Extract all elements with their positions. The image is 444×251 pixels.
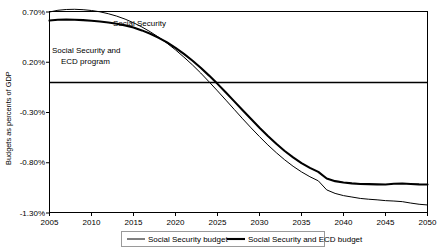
y-axis-tick-marks xyxy=(46,12,50,213)
data-series-group xyxy=(50,9,428,205)
y-tick-label: 0.20% xyxy=(22,58,45,67)
y-tick-label: 0.70% xyxy=(22,8,45,17)
x-tick-label: 2040 xyxy=(335,218,353,227)
legend-label-social-security-budget: Social Security budget xyxy=(148,235,228,244)
social-security-annotation: Social Security xyxy=(113,19,166,28)
y-axis-title: Budgets as percents of GDP xyxy=(4,71,13,165)
y-tick-label: -1.30% xyxy=(20,209,45,218)
chart-legend: Social Security budget Social Security a… xyxy=(122,232,364,247)
x-tick-label: 2010 xyxy=(83,218,101,227)
social-security-ecd-annotation-line1: Social Security and xyxy=(52,46,120,55)
plot-frame xyxy=(49,11,428,213)
x-tick-label: 2035 xyxy=(293,218,311,227)
series-line-social-security-ecd-budget xyxy=(50,20,428,185)
x-tick-label: 2015 xyxy=(125,218,143,227)
x-tick-label: 2050 xyxy=(419,218,437,227)
budget-line-chart: Budgets as percents of GDP 0.70%0.20%-0.… xyxy=(0,0,444,251)
y-tick-label: -0.30% xyxy=(20,108,45,117)
social-security-ecd-annotation-line2: ECD program xyxy=(61,57,110,66)
x-tick-label: 2020 xyxy=(167,218,185,227)
y-axis-tick-labels: 0.70%0.20%-0.30%-0.80%-1.30% xyxy=(20,8,45,218)
y-tick-label: -0.80% xyxy=(20,158,45,167)
x-tick-label: 2030 xyxy=(251,218,269,227)
x-axis-tick-marks xyxy=(50,213,428,217)
x-tick-label: 2005 xyxy=(41,218,59,227)
chart-container: Budgets as percents of GDP 0.70%0.20%-0.… xyxy=(0,0,444,251)
x-tick-label: 2025 xyxy=(209,218,227,227)
x-axis-tick-labels: 2005201020152020202520302035204020452050 xyxy=(41,218,437,227)
legend-label-social-security-ecd-budget: Social Security and ECD budget xyxy=(248,235,363,244)
x-tick-label: 2045 xyxy=(377,218,395,227)
